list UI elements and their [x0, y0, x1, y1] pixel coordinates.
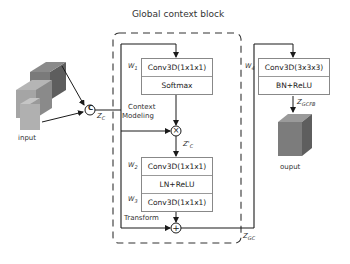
- z-gcfb-label: ZGCFB: [297, 98, 315, 107]
- w2-label: W2: [128, 161, 138, 170]
- input-label: input: [18, 134, 36, 142]
- ln-relu-layer: LN+ReLU: [142, 175, 212, 193]
- w3-label: W3: [128, 195, 138, 204]
- context-modeling-box: Conv3D(1x1x1) Softmax: [141, 58, 213, 95]
- bn-relu-layer: BN+ReLU: [259, 76, 329, 94]
- w4-label: W4: [245, 62, 255, 71]
- context-label-line2: Modeling: [122, 112, 154, 120]
- z-gc-label: ZGC: [243, 232, 255, 241]
- output-cube: [278, 114, 312, 156]
- context-label-line1: Context: [128, 103, 155, 111]
- transform-box: Conv3D(1x1x1) LN+ReLU Conv3D(1x1x1): [141, 157, 213, 212]
- concat-icon: C: [86, 104, 95, 112]
- conv3d-w2-layer: Conv3D(1x1x1): [142, 158, 212, 175]
- softmax-layer: Softmax: [142, 76, 212, 94]
- add-icon: +: [171, 222, 181, 234]
- input-cubes: [16, 62, 66, 130]
- conv3d-w3-layer: Conv3D(1x1x1): [142, 193, 212, 211]
- z-c-prime-label: Z'C: [183, 140, 193, 149]
- z-c-label: ZC: [97, 112, 105, 121]
- output-label: ouput: [280, 163, 300, 171]
- transform-label: Transform: [124, 214, 159, 222]
- conv3d-1x1x1-layer: Conv3D(1x1x1): [142, 59, 212, 76]
- output-conv-box: Conv3D(3x3x3) BN+ReLU: [258, 58, 330, 95]
- multiply-icon: ×: [171, 125, 181, 137]
- global-context-block-title: Global context block: [108, 9, 248, 19]
- conv3d-3x3x3-layer: Conv3D(3x3x3): [259, 59, 329, 76]
- w1-label: W1: [128, 62, 138, 71]
